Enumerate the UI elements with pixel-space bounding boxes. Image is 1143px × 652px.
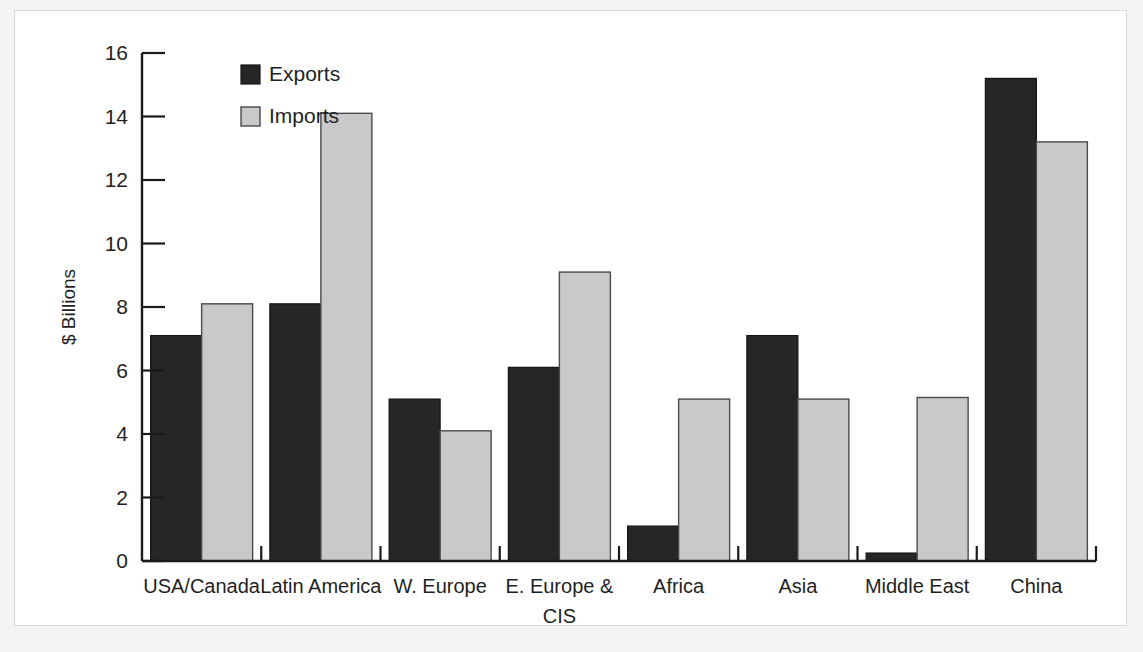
bar-imports-latin-america: [321, 113, 372, 561]
y-tick-label: 4: [116, 422, 128, 445]
bar-chart: 0246810121416 USA/CanadaLatin AmericaW. …: [15, 11, 1126, 625]
y-tick-label: 16: [105, 41, 128, 64]
bar-imports-middle-east: [917, 397, 968, 561]
x-category-label: Asia: [778, 575, 818, 597]
legend: ExportsImports: [241, 62, 340, 127]
bar-exports-e-europe-cis: [508, 367, 559, 561]
legend-swatch-exports: [241, 65, 260, 84]
chart-canvas: 0246810121416 USA/CanadaLatin AmericaW. …: [15, 11, 1128, 627]
bar-imports-china: [1036, 142, 1087, 561]
chart-plate: 0246810121416 USA/CanadaLatin AmericaW. …: [14, 10, 1127, 626]
bar-exports-china: [985, 78, 1036, 561]
bar-imports-asia: [798, 399, 849, 561]
x-category-labels: USA/CanadaLatin AmericaW. EuropeE. Europ…: [143, 575, 1063, 627]
legend-label-imports: Imports: [269, 104, 339, 127]
bar-imports-africa: [679, 399, 730, 561]
bar-exports-asia: [747, 336, 798, 561]
x-category-label: Africa: [653, 575, 705, 597]
y-tick-label: 14: [105, 105, 129, 128]
bar-imports-w-europe: [440, 431, 491, 561]
x-category-label: W. Europe: [393, 575, 486, 597]
y-axis-title: $ Billions: [58, 269, 79, 345]
y-tick-label: 6: [116, 359, 128, 382]
y-tick-label: 10: [105, 232, 128, 255]
x-category-label: E. Europe &CIS: [505, 575, 614, 627]
x-category-label: Latin America: [260, 575, 382, 597]
bar-exports-w-europe: [389, 399, 440, 561]
screenshot-root: 0246810121416 USA/CanadaLatin AmericaW. …: [0, 0, 1143, 652]
y-tick-labels: 0246810121416: [105, 41, 129, 572]
x-category-label: Middle East: [865, 575, 970, 597]
y-tick-label: 8: [116, 295, 128, 318]
bar-exports-latin-america: [270, 304, 321, 561]
bars-layer: [151, 78, 1088, 561]
y-tick-label: 0: [116, 549, 128, 572]
bar-imports-usa-canada: [202, 304, 253, 561]
y-tick-label: 12: [105, 168, 128, 191]
legend-label-exports: Exports: [269, 62, 340, 85]
y-tick-label: 2: [116, 486, 128, 509]
bar-exports-usa-canada: [151, 336, 202, 561]
x-category-label: USA/Canada: [143, 575, 261, 597]
bar-exports-africa: [628, 526, 679, 561]
bar-imports-e-europe-cis: [559, 272, 610, 561]
x-category-label: China: [1010, 575, 1063, 597]
legend-swatch-imports: [241, 107, 260, 126]
y-axis-title-text: $ Billions: [58, 269, 79, 345]
